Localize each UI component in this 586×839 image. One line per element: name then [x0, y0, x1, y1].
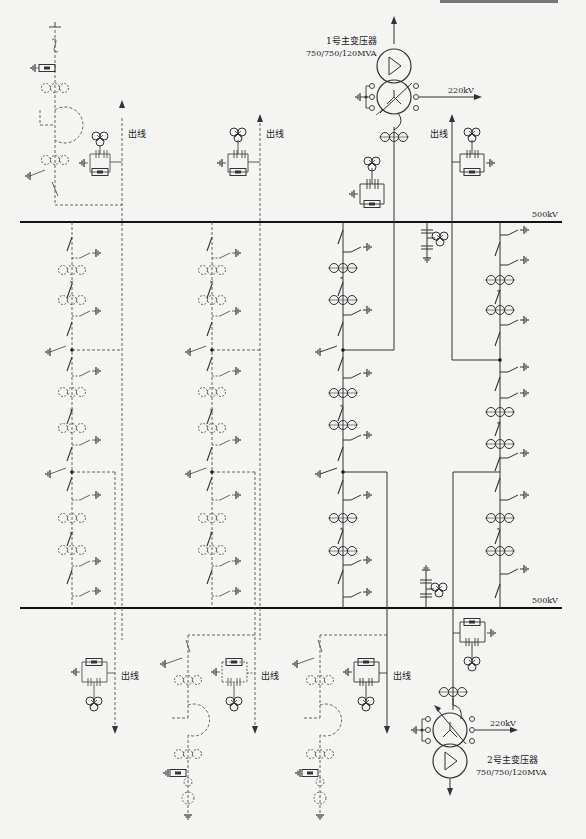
- line-5-label: 出线: [261, 670, 279, 681]
- single-line-diagram: 500kV 500kV: [0, 0, 586, 839]
- transformer-2: [412, 688, 518, 797]
- bay-1: × × ×: [46, 222, 122, 730]
- svg-text:*: *: [340, 275, 343, 282]
- line-1-label: 出线: [128, 128, 146, 139]
- tx2-rating: 750/750/120MVA: [476, 768, 547, 777]
- line-6-feeder: [344, 659, 390, 735]
- top-left-feeder-symbols: [26, 22, 125, 196]
- line-4-label: 出线: [121, 670, 139, 681]
- line-3-label: 出线: [430, 128, 448, 139]
- bottom-mid-feeder-symbols: [161, 640, 202, 819]
- line-2-label: 出线: [266, 128, 284, 139]
- tx1-lv-label: 220kV: [448, 86, 474, 95]
- upper-bus-vt: [421, 222, 435, 258]
- tx2-name: 2号主变压器: [487, 754, 538, 765]
- top-left-future-feeder: [40, 30, 122, 640]
- tx1-name: 1号主变压器: [326, 35, 377, 46]
- line-4-feeder: [72, 659, 118, 735]
- transformer-1: [356, 16, 482, 222]
- line-5-feeder: [212, 659, 258, 735]
- line-3-feeder: [449, 114, 494, 360]
- bottom-mid-future-feeder: [172, 635, 255, 815]
- line-6-label: 出线: [393, 670, 411, 681]
- bay-3: * * *: [316, 222, 394, 730]
- bottom-right-feeder-symbols: [293, 640, 334, 819]
- bay-4: * * *: [452, 222, 528, 710]
- tx1-rating: 750/750/120MVA: [306, 49, 377, 58]
- tx2-lv-label: 220kV: [490, 719, 516, 728]
- bay-2: × × ×: [186, 222, 260, 730]
- lower-bus-label: 500kV: [532, 596, 558, 605]
- tx1-vt-block: [350, 157, 384, 208]
- upper-bus-label: 500kV: [532, 210, 558, 219]
- tx2-vt-block: [453, 619, 495, 672]
